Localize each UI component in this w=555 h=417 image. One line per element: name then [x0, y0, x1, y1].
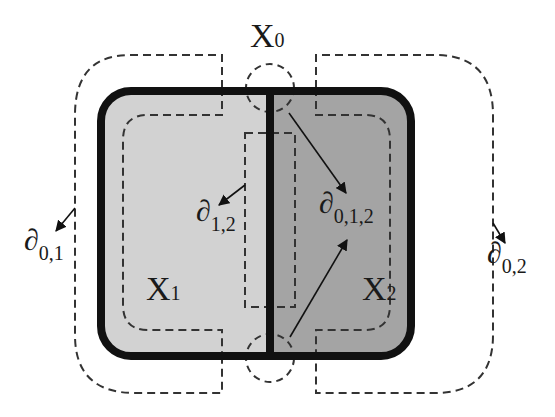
- label-x0: X0: [250, 17, 285, 54]
- arrow-0-1: [56, 208, 75, 231]
- diagram-canvas: X0 X1 X2 ∂0,1 ∂0,2 ∂1,2 ∂0,1,2: [0, 0, 555, 417]
